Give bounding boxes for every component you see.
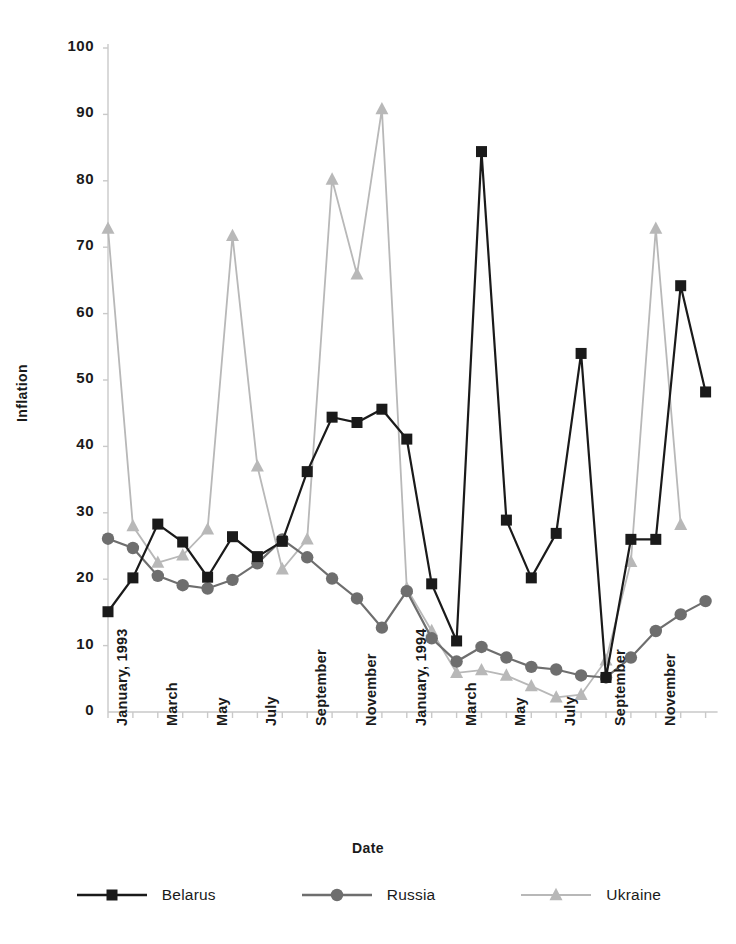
data-point-triangle <box>475 663 488 675</box>
data-point-square <box>177 537 188 548</box>
chart-canvas <box>0 0 736 944</box>
series-layer <box>102 102 712 703</box>
data-point-square <box>302 466 313 477</box>
data-point-circle <box>699 595 711 607</box>
inflation-line-chart: Inflation Date 0102030405060708090100 Ja… <box>0 0 736 944</box>
data-point-circle <box>575 669 587 681</box>
x-tick-label: July <box>263 696 279 726</box>
y-axis-label: Inflation <box>14 333 30 453</box>
x-tick-label: November <box>363 653 379 726</box>
data-point-square <box>401 434 412 445</box>
data-point-square <box>252 551 263 562</box>
data-point-square <box>551 528 562 539</box>
data-point-triangle <box>674 518 687 530</box>
x-tick-label: March <box>463 682 479 726</box>
y-tick-label: 0 <box>46 701 94 718</box>
data-point-triangle <box>226 229 239 241</box>
data-point-circle <box>331 889 343 901</box>
data-point-triangle <box>649 221 662 233</box>
data-point-circle <box>401 585 413 597</box>
data-point-circle <box>326 572 338 584</box>
data-point-square <box>202 572 213 583</box>
data-point-square <box>625 534 636 545</box>
y-tick-label: 40 <box>46 435 94 452</box>
data-point-circle <box>152 570 164 582</box>
x-tick-label: March <box>164 682 180 726</box>
data-point-circle <box>102 532 114 544</box>
data-point-square <box>426 578 437 589</box>
y-tick-label: 100 <box>46 37 94 54</box>
legend-label: Russia <box>387 886 436 904</box>
data-point-circle <box>525 661 537 673</box>
legend-item-ukraine[interactable]: Ukraine <box>519 885 661 905</box>
legend-swatch-russia <box>300 885 374 905</box>
data-point-circle <box>177 579 189 591</box>
legend-label: Belarus <box>162 886 216 904</box>
data-point-square <box>650 534 661 545</box>
data-point-circle <box>675 608 687 620</box>
data-point-circle <box>550 663 562 675</box>
x-axis-label: Date <box>0 840 736 856</box>
data-point-triangle <box>351 267 364 279</box>
data-point-square <box>227 531 238 542</box>
data-point-circle <box>226 574 238 586</box>
x-tick-label: November <box>662 653 678 726</box>
data-point-square <box>501 515 512 526</box>
data-point-triangle <box>251 459 264 471</box>
data-point-square <box>526 572 537 583</box>
data-point-circle <box>650 625 662 637</box>
data-point-square <box>476 146 487 157</box>
data-point-square <box>700 386 711 397</box>
data-point-square <box>576 348 587 359</box>
legend-item-russia[interactable]: Russia <box>300 885 436 905</box>
data-point-triangle <box>201 522 214 534</box>
x-tick-label: May <box>512 697 528 726</box>
data-point-triangle <box>375 102 388 114</box>
legend-label: Ukraine <box>606 886 661 904</box>
y-tick-label: 60 <box>46 303 94 320</box>
data-point-circle <box>351 592 363 604</box>
series-belarus <box>103 146 712 683</box>
x-tick-label: September <box>612 649 628 726</box>
data-point-square <box>103 606 114 617</box>
x-tick-label: January, 1993 <box>114 629 130 726</box>
data-point-triangle <box>126 519 139 531</box>
y-tick-label: 20 <box>46 568 94 585</box>
data-point-triangle <box>326 172 339 184</box>
x-tick-label: May <box>214 697 230 726</box>
data-point-circle <box>376 621 388 633</box>
x-tick-label: January, 1994 <box>413 629 429 726</box>
data-point-circle <box>450 655 462 667</box>
data-point-triangle <box>102 221 115 233</box>
data-point-circle <box>201 582 213 594</box>
data-point-square <box>152 519 163 530</box>
y-tick-label: 50 <box>46 369 94 386</box>
legend-item-belarus[interactable]: Belarus <box>75 885 216 905</box>
legend-swatch-ukraine <box>519 885 593 905</box>
y-axis-label-wrap: Inflation <box>2 330 42 470</box>
data-point-square <box>451 635 462 646</box>
data-point-circle <box>127 542 139 554</box>
data-point-circle <box>301 551 313 563</box>
y-tick-label: 90 <box>46 103 94 120</box>
x-tick-label: September <box>313 649 329 726</box>
data-point-square <box>376 404 387 415</box>
series-line <box>108 152 706 678</box>
series-ukraine <box>102 102 688 703</box>
data-point-square <box>675 280 686 291</box>
data-point-square <box>601 672 612 683</box>
y-tick-label: 80 <box>46 170 94 187</box>
legend-swatch-belarus <box>75 885 149 905</box>
data-point-square <box>352 417 363 428</box>
y-tick-label: 10 <box>46 635 94 652</box>
chart-legend: BelarusRussiaUkraine <box>0 878 736 912</box>
data-point-square <box>106 890 117 901</box>
y-tick-label: 30 <box>46 502 94 519</box>
data-point-square <box>127 572 138 583</box>
data-point-circle <box>475 641 487 653</box>
y-tick-label: 70 <box>46 236 94 253</box>
axes-layer <box>103 44 718 718</box>
data-point-triangle <box>301 532 314 544</box>
x-tick-label: July <box>562 696 578 726</box>
data-point-square <box>277 536 288 547</box>
